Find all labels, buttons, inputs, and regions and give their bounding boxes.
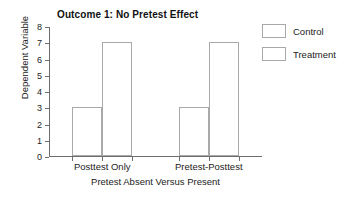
x-axis-line (49, 156, 262, 157)
y-tick-label: 7 (37, 39, 42, 48)
y-tick-label: 6 (37, 55, 42, 64)
y-tick-label: 1 (37, 136, 42, 145)
bar-chart: Outcome 1: No Pretest Effect 012345678 P… (0, 0, 343, 199)
legend-swatch-icon (262, 47, 286, 61)
y-axis-line (49, 27, 50, 157)
y-tick-label: 4 (37, 88, 42, 97)
legend-swatch-icon (262, 24, 286, 38)
chart-title: Outcome 1: No Pretest Effect (57, 9, 198, 20)
y-tick-mark (45, 108, 49, 109)
legend-label: Control (293, 26, 324, 37)
y-tick-mark (45, 27, 49, 28)
y-tick-mark (45, 125, 49, 126)
y-tick-mark (45, 76, 49, 77)
y-tick-label: 3 (37, 104, 42, 113)
bar-control-2 (179, 107, 209, 156)
y-tick-label: 8 (37, 23, 42, 32)
legend-label: Treatment (293, 49, 336, 60)
y-tick-mark (45, 92, 49, 93)
x-axis-title: Pretest Absent Versus Present (49, 176, 262, 187)
y-tick-label: 2 (37, 120, 42, 129)
y-axis-title: Dependent Variable (19, 0, 30, 123)
y-tick-mark (45, 60, 49, 61)
y-tick-mark (45, 157, 49, 158)
x-tick-mark (132, 157, 133, 161)
x-tick-label: Pretest-Posttest (175, 161, 243, 172)
chart-legend: ControlTreatment (262, 22, 340, 68)
legend-item-control[interactable]: Control (262, 22, 340, 40)
bar-treatment-1 (102, 42, 132, 156)
bar-control-1 (72, 107, 102, 156)
bar-treatment-2 (209, 42, 239, 156)
y-tick-label: 0 (37, 153, 42, 162)
legend-item-treatment[interactable]: Treatment (262, 45, 340, 63)
y-tick-mark (45, 141, 49, 142)
x-tick-label: Posttest Only (74, 161, 131, 172)
plot-area: 012345678 Posttest OnlyPretest-Posttest (49, 27, 262, 157)
y-tick-label: 5 (37, 71, 42, 80)
y-tick-mark (45, 43, 49, 44)
